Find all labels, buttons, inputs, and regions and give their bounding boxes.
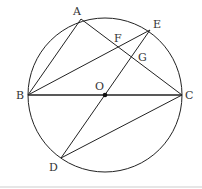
label-d: D: [49, 161, 58, 174]
label-c: C: [185, 89, 193, 102]
center-point-o: [103, 93, 108, 98]
label-f: F: [114, 32, 122, 45]
label-e: E: [153, 18, 161, 31]
label-a: A: [72, 5, 82, 18]
label-b: B: [16, 89, 24, 102]
label-o: O: [95, 80, 104, 93]
segment-ab: [28, 19, 81, 95]
segment-dc: [61, 95, 182, 158]
geometry-diagram: A E F G B O C D: [0, 0, 202, 189]
bottom-divider: [0, 186, 202, 188]
label-g: G: [138, 51, 147, 64]
segment-be: [28, 30, 150, 95]
